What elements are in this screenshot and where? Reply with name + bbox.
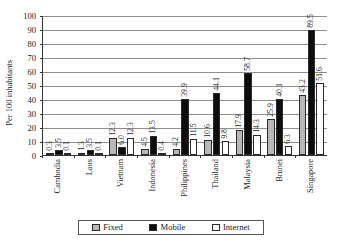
bar-internet[interactable]: 0.1 xyxy=(95,153,103,155)
x-axis-category-labels: CambodiaLaosVietnamIndonesiaPhilippinesT… xyxy=(42,158,327,216)
x-axis-tick-mark xyxy=(42,155,43,158)
bar-mobile[interactable]: 6.0 xyxy=(118,147,126,155)
y-axis-tick-label: 0 xyxy=(32,152,36,161)
x-axis-category-label: Cambodia xyxy=(54,159,62,193)
legend-item-mobile[interactable]: Mobile xyxy=(149,223,185,232)
bar-fixed[interactable]: 0.3 xyxy=(46,153,54,155)
bar-group: 43.289.551.6 xyxy=(296,16,328,155)
bar-fixed[interactable]: 25.9 xyxy=(267,119,275,155)
plot-area: 0.33.50.11.33.50.112.36.012.34.513.50.44… xyxy=(42,16,327,156)
x-axis-category-label: Malaysia xyxy=(244,159,252,190)
bar-value-label: 6.3 xyxy=(285,134,293,144)
bar-group: 0.33.50.1 xyxy=(43,16,75,155)
bar-mobile[interactable]: 3.5 xyxy=(55,150,63,155)
bar-internet[interactable]: 11.5 xyxy=(190,139,198,155)
bar-value-label: 4.5 xyxy=(141,137,149,147)
chart-legend: FixedMobileInternet xyxy=(78,220,264,235)
bar-value-label: 12.3 xyxy=(109,122,117,136)
bar-value-label: 58.7 xyxy=(244,57,252,71)
internet-swatch-icon xyxy=(212,224,220,231)
bar-groups: 0.33.50.11.33.50.112.36.012.34.513.50.44… xyxy=(43,16,327,155)
bar-mobile[interactable]: 3.5 xyxy=(87,150,95,155)
bar-internet[interactable]: 0.4 xyxy=(158,153,166,155)
bar-value-label: 40.1 xyxy=(276,83,284,97)
x-axis-category-singapore: Singapore xyxy=(295,158,327,216)
bar-internet[interactable]: 51.6 xyxy=(316,83,324,155)
bar-mobile[interactable]: 89.5 xyxy=(308,30,316,155)
x-axis-tick-mark xyxy=(264,155,265,158)
bar-value-label: 17.9 xyxy=(236,114,244,128)
x-axis-category-label: Thailand xyxy=(212,159,220,189)
bar-fixed[interactable]: 43.2 xyxy=(299,95,307,155)
bar-internet[interactable]: 14.3 xyxy=(253,135,261,155)
x-axis-category-label: Singapore xyxy=(307,159,315,193)
bar-mobile[interactable]: 44.1 xyxy=(213,93,221,155)
bar-internet[interactable]: 6.3 xyxy=(285,146,293,155)
grouped-bar-chart: Per 100 inhabitants 01020304050607080901… xyxy=(0,0,345,242)
bar-fixed[interactable]: 17.9 xyxy=(236,130,244,155)
x-axis-category-philippines: Philippines xyxy=(169,158,201,216)
x-axis-tick-mark xyxy=(105,155,106,158)
x-axis-tick-mark xyxy=(169,155,170,158)
bar-mobile[interactable]: 40.1 xyxy=(276,99,284,155)
x-axis-tick-mark xyxy=(295,155,296,158)
y-axis-tick-label: 10 xyxy=(28,138,37,147)
bar-group: 10.644.19.8 xyxy=(201,16,233,155)
x-axis-category-malaysia: Malaysia xyxy=(232,158,264,216)
bar-internet[interactable]: 12.3 xyxy=(127,138,135,155)
y-axis-tick-label: 60 xyxy=(28,68,37,77)
bar-mobile[interactable]: 58.7 xyxy=(244,73,252,155)
bar-internet[interactable]: 0.1 xyxy=(64,153,72,155)
bar-value-label: 39.9 xyxy=(181,83,189,97)
y-axis-tick-label: 40 xyxy=(28,96,37,105)
legend-label: Fixed xyxy=(103,223,123,232)
x-axis-category-laos: Laos xyxy=(74,158,106,216)
x-axis-category-thailand: Thailand xyxy=(200,158,232,216)
bar-value-label: 9.8 xyxy=(221,130,229,140)
legend-item-internet[interactable]: Internet xyxy=(212,223,250,232)
bar-fixed[interactable]: 4.2 xyxy=(173,149,181,155)
bar-mobile[interactable]: 13.5 xyxy=(150,136,158,155)
x-axis-tick-mark xyxy=(232,155,233,158)
bar-fixed[interactable]: 12.3 xyxy=(109,138,117,155)
bar-value-label: 43.2 xyxy=(299,79,307,93)
x-axis-tick-mark xyxy=(137,155,138,158)
bar-value-label: 10.6 xyxy=(204,125,212,139)
bar-group: 25.940.16.3 xyxy=(264,16,296,155)
y-axis-tick-label: 20 xyxy=(28,124,37,133)
bar-internet[interactable]: 9.8 xyxy=(222,141,230,155)
bar-value-label: 13.5 xyxy=(150,120,158,134)
x-axis-tick-mark xyxy=(74,155,75,158)
y-axis-tick-label: 70 xyxy=(28,54,37,63)
bar-value-label: 0.4 xyxy=(158,141,166,151)
x-axis-category-cambodia: Cambodia xyxy=(42,158,74,216)
bar-fixed[interactable]: 1.3 xyxy=(78,153,86,155)
bar-value-label: 89.5 xyxy=(307,14,315,28)
y-axis-tick-label: 50 xyxy=(28,82,37,91)
bar-value-label: 11.5 xyxy=(190,124,198,137)
y-axis-tick-label: 90 xyxy=(28,26,37,35)
x-axis-category-label: Philippines xyxy=(180,159,188,197)
bar-value-label: 4.2 xyxy=(173,137,181,147)
y-axis-tick-label: 100 xyxy=(23,12,36,21)
x-axis-category-label: Indonesia xyxy=(149,159,157,192)
y-axis-tick-labels: 0102030405060708090100 xyxy=(0,0,40,140)
bar-value-label: 14.3 xyxy=(253,119,261,133)
x-axis-category-vietnam: Vietnam xyxy=(105,158,137,216)
bar-fixed[interactable]: 10.6 xyxy=(204,140,212,155)
bar-value-label: 0.3 xyxy=(46,141,54,151)
x-axis-category-brunei: Brunei xyxy=(264,158,296,216)
x-axis-category-label: Brunei xyxy=(275,159,283,182)
y-axis-tick-label: 80 xyxy=(28,40,37,49)
bar-value-label: 12.3 xyxy=(127,122,135,136)
bar-mobile[interactable]: 39.9 xyxy=(181,99,189,155)
bar-group: 1.33.50.1 xyxy=(75,16,107,155)
y-axis-tick-label: 30 xyxy=(28,110,37,119)
bar-value-label: 44.1 xyxy=(213,78,221,92)
legend-item-fixed[interactable]: Fixed xyxy=(92,223,123,232)
x-axis-category-label: Laos xyxy=(85,159,93,175)
legend-label: Internet xyxy=(223,223,250,232)
mobile-swatch-icon xyxy=(149,224,157,231)
bar-fixed[interactable]: 4.5 xyxy=(141,149,149,155)
bar-value-label: 6.0 xyxy=(118,135,126,145)
